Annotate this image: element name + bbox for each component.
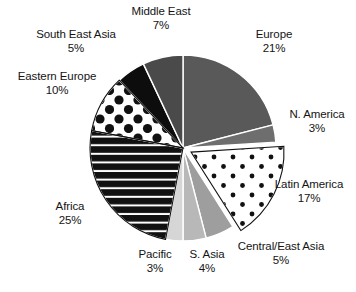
- slice-label-name: Central/East Asia: [221, 240, 341, 254]
- slice-label-europe: Europe 21%: [238, 28, 310, 55]
- slice-label-n-america: N. America 3%: [278, 108, 356, 135]
- slice-label-name: Latin America: [262, 178, 356, 192]
- slice-label-name: Europe: [238, 28, 310, 42]
- pie-chart: Middle East 7% South East Asia 5% Easter…: [0, 0, 356, 292]
- slice-label-pacific: Pacific 3%: [128, 248, 182, 275]
- slice-label-value: 17%: [262, 192, 356, 206]
- slice-label-africa: Africa 25%: [30, 200, 110, 227]
- slice-label-name: South East Asia: [18, 28, 134, 42]
- slice-label-value: 25%: [30, 214, 110, 228]
- slice-label-name: Middle East: [106, 5, 216, 19]
- slice-label-eastern-europe: Eastern Europe 10%: [2, 70, 112, 97]
- slice-label-name: Pacific: [128, 248, 182, 262]
- slice-label-name: N. America: [278, 108, 356, 122]
- slice-label-name: Africa: [30, 200, 110, 214]
- slice-label-value: 5%: [18, 42, 134, 56]
- slice-label-value: 3%: [278, 122, 356, 136]
- slice-label-value: 5%: [221, 254, 341, 268]
- slice-label-south-east-asia: South East Asia 5%: [18, 28, 134, 55]
- slice-label-value: 10%: [2, 84, 112, 98]
- slice-label-value: 3%: [128, 262, 182, 276]
- slice-label-name: Eastern Europe: [2, 70, 112, 84]
- slice-label-latin-america: Latin America 17%: [262, 178, 356, 205]
- slice-label-central-east-asia: Central/East Asia 5%: [221, 240, 341, 267]
- slice-label-value: 21%: [238, 42, 310, 56]
